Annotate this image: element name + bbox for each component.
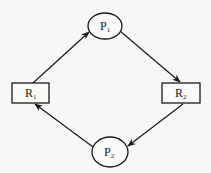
resource-allocation-graph: P1 R1 R2 P2 [0, 0, 211, 173]
process-node-p1: P1 [88, 13, 122, 39]
edge-p2-to-r1 [35, 104, 93, 147]
edge-r1-to-p1 [33, 32, 89, 83]
edge-r2-to-p2 [128, 104, 183, 146]
resource-node-r1: R1 [12, 83, 49, 103]
edge-p1-to-r2 [120, 31, 180, 82]
process-node-p2: P2 [92, 137, 128, 167]
resource-node-r2: R2 [162, 83, 200, 103]
